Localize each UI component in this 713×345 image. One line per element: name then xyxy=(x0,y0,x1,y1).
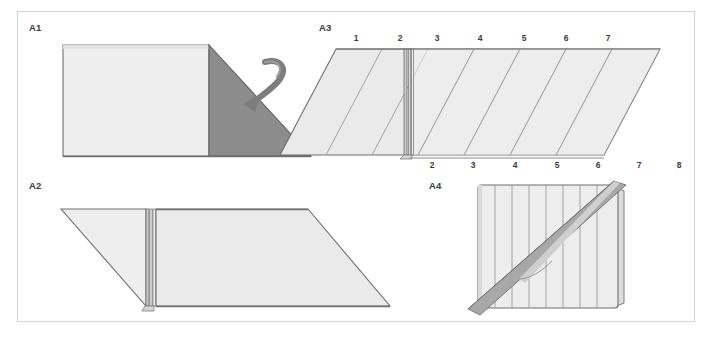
panel-a4-diagram xyxy=(418,167,696,323)
a4-left-fold-shadow xyxy=(478,185,482,308)
figure-root: A1 A3 xyxy=(0,0,713,345)
panel-a2: A2 xyxy=(18,167,418,323)
a3-top-tick-2: 2 xyxy=(398,33,403,43)
panel-a3: A3 xyxy=(308,12,696,167)
a3-top-tick-3: 3 xyxy=(435,33,440,43)
panel-a1-diagram xyxy=(18,12,308,167)
a3-top-tick-labels: 1 2 3 4 5 6 7 xyxy=(354,33,611,43)
a1-rectangle-shade xyxy=(63,45,209,49)
figure-frame: A1 A3 xyxy=(17,11,695,322)
panel-a3-label: A3 xyxy=(319,23,332,33)
a2-right-parallelogram xyxy=(156,209,390,306)
panel-a4: A4 xyxy=(418,167,696,323)
a3-top-tick-1: 1 xyxy=(354,33,359,43)
a3-top-tick-6: 6 xyxy=(564,33,569,43)
a2-left-triangle xyxy=(61,209,146,306)
panel-a1-label: A1 xyxy=(29,23,42,33)
a3-top-tick-4: 4 xyxy=(478,33,483,43)
panel-a4-label: A4 xyxy=(429,181,442,191)
panel-a2-label: A2 xyxy=(29,181,42,191)
panel-a1: A1 xyxy=(18,12,308,167)
a1-light-rectangle xyxy=(63,45,209,156)
panel-a3-diagram: 1 2 3 4 5 6 7 2 3 4 5 6 7 8 xyxy=(308,12,696,167)
a3-top-tick-5: 5 xyxy=(522,33,527,43)
panel-a2-diagram xyxy=(18,167,418,323)
a3-folded-layer xyxy=(411,49,660,155)
a3-top-tick-7: 7 xyxy=(606,33,611,43)
